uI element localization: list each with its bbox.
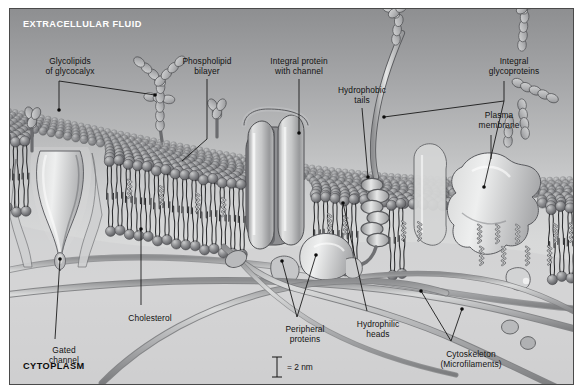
peripheral-protein-center [300,234,363,280]
label-integral-protein-channel: Integral protein with channel [253,57,345,76]
label-glycolipids: Glycolipids of glycocalyx [24,57,116,76]
label-peripheral-proteins: Peripheral proteins [269,325,341,344]
label-hydrophilic-heads: Hydrophilic heads [340,320,416,339]
glycolipid-chain-mid-stem [156,81,166,131]
integral-glycoprotein-helix [352,33,402,265]
label-gated-channel: Gated channel [32,346,96,365]
label-hydrophobic-tails: Hydrophobic tails [322,86,402,105]
label-cytoskeleton: Cytoskeleton (Microfilaments) [419,350,523,369]
figure-canvas: EXTRACELLULAR FLUID CYTOPLASM = 2 nm Gly… [0,0,581,391]
figure-frame: EXTRACELLULAR FLUID CYTOPLASM = 2 nm Gly… [9,8,574,385]
header-extracellular-fluid: EXTRACELLULAR FLUID [23,19,142,29]
glycoprotein-chain-top-stem [391,14,404,46]
label-plasma-membrane: Plasma membrane [461,111,537,130]
integral-glycoprotein-right [447,153,540,254]
glycoprotein-right-branch-a [511,77,560,105]
scale-bar-label: = 2 nm [287,362,313,372]
label-integral-glycoproteins: Integral glycoproteins [471,57,557,76]
glycoprotein-right-stem [517,10,529,51]
glycoprotein-right-r [514,9,545,16]
label-phospholipid-bilayer: Phospholipid bilayer [167,57,247,76]
integral-protein-channel-body [244,109,308,249]
label-cholesterol: Cholesterol [115,314,185,324]
